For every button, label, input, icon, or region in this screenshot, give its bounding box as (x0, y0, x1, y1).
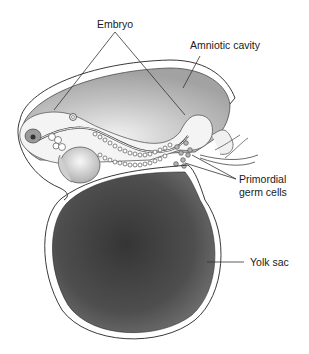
primordial-germ-cells-label-line2: germ cells (239, 186, 287, 198)
embryo-diagram: Embryo Amniotic cavity Primordial germ c… (0, 0, 309, 354)
primordial-germ-cells-label-line1: Primordial (239, 173, 286, 185)
yolk-sac (45, 165, 221, 339)
yolk-sac-label: Yolk sac (250, 256, 289, 268)
amniotic-cavity-label: Amniotic cavity (190, 39, 261, 51)
embryo-label: Embryo (97, 18, 133, 30)
